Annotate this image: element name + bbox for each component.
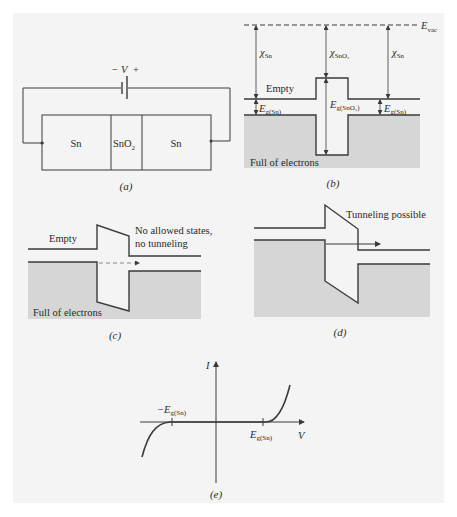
panel-c-no-tunneling: Empty No allowed states, no tunneling Fu… [28,225,212,342]
region-sno2: SnO2 [113,138,136,152]
terminal-left [41,142,44,145]
caption-c: (c) [109,329,122,342]
caption-d: (d) [334,326,347,339]
caption-a: (a) [120,180,133,193]
region-sn-left: Sn [70,138,82,149]
tunneling-possible-note: Tunneling possible [346,209,426,220]
battery-minus-label: − [112,64,118,75]
x-axis-label-V: V [298,430,306,441]
chi-sn-right-label: χSn [391,47,405,60]
chi-sno2-label: χSnO₂ [329,47,350,60]
caption-b: (b) [327,177,340,190]
empty-label: Empty [266,83,295,94]
eg-sno2-label: Eg(SnO₂) [329,99,360,112]
panel-e-iv-curve: I V −Eg(Sn) Eg(Sn) (e) [140,360,306,501]
no-tunneling-note-line2: no tunneling [135,238,189,249]
region-sn-right: Sn [170,138,182,149]
evac-label: Evac [420,20,437,34]
eg-sn-left-label: Eg(Sn) [258,103,282,116]
chi-sn-left-label: χSn [259,47,273,60]
y-axis-label-I: I [205,360,210,371]
filled-band [254,240,430,317]
pos-eg-label: Eg(Sn) [249,429,273,442]
terminal-right [210,140,213,143]
eg-sn-right-label: Eg(Sn) [383,103,407,116]
caption-e: (e) [210,488,223,501]
battery-v-label: V [121,64,129,75]
full-of-electrons-label: Full of electrons [33,307,102,318]
panel-d-tunneling: Tunneling possible (d) [254,205,430,339]
no-tunneling-note-line1: No allowed states, [135,225,212,236]
panel-a-circuit: − V + Sn SnO2 Sn (a) [23,64,230,193]
full-of-electrons-label: Full of electrons [250,157,319,168]
panel-b-band-diagram: Evac χSn χSnO₂ χSn Eg(Sn) Eg(SnO₂) Eg(Sn… [244,20,437,190]
battery-plus-label: + [133,64,139,75]
neg-eg-label: −Eg(Sn) [157,404,187,417]
empty-label: Empty [49,233,78,244]
figure-canvas: − V + Sn SnO2 Sn (a) Evac χSn χSnO₂ χSn [0,0,457,517]
